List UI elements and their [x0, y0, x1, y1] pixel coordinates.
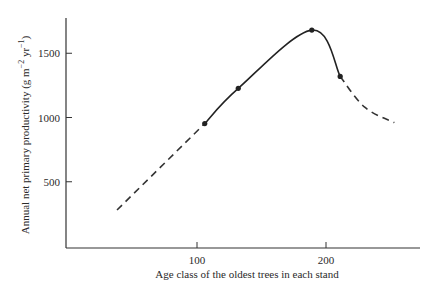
- y-axis-title-exp1: −2: [17, 60, 26, 69]
- y-axis-title-exp2: −1: [17, 39, 26, 48]
- series-line-extrapolated-declining: [340, 76, 394, 122]
- series-line-observed: [205, 30, 340, 124]
- x-tick-label: 200: [318, 254, 335, 266]
- axes: [66, 18, 420, 248]
- data-point: [338, 74, 343, 79]
- chart: 10020050010001500 Age class of the oldes…: [0, 0, 440, 283]
- y-axis-title-end: ): [19, 35, 32, 39]
- y-tick-label: 1000: [38, 112, 61, 124]
- y-axis-title-mid: yr: [19, 48, 31, 60]
- y-tick-label: 500: [44, 176, 61, 188]
- x-tick-label: 100: [189, 254, 206, 266]
- x-axis-title: Age class of the oldest trees in each st…: [155, 268, 339, 280]
- data-point: [309, 28, 314, 33]
- ticks: 10020050010001500: [38, 47, 335, 266]
- y-axis-title-main: Annual net primary productivity (g m: [19, 68, 32, 234]
- data-point: [202, 121, 207, 126]
- series-line-extrapolated-rising: [117, 124, 205, 210]
- series: [117, 30, 394, 210]
- data-point: [236, 86, 241, 91]
- y-tick-label: 1500: [38, 47, 61, 59]
- points: [202, 28, 343, 127]
- y-axis-title: Annual net primary productivity (g m−2 y…: [17, 35, 32, 234]
